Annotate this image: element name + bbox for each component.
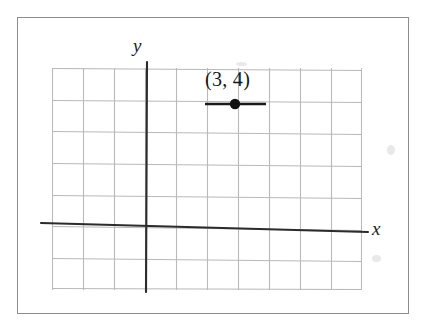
scan-speckle — [236, 62, 247, 66]
y-axis-label: y — [133, 36, 141, 55]
coordinate-grid — [52, 68, 362, 290]
grid-lines — [52, 68, 362, 290]
scan-speckle — [372, 255, 381, 262]
x-axis-label: x — [372, 219, 380, 238]
figure-screenshot: y x (3, 4) — [0, 0, 425, 332]
plotted-point-label: (3, 4) — [205, 68, 250, 91]
scan-speckle — [387, 145, 395, 155]
